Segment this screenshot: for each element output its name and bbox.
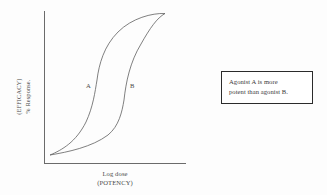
y-axis-title-line1: (EFFICACY) xyxy=(15,79,24,115)
y-axis-title: (EFFICACY) % Response. xyxy=(0,52,48,142)
x-axis-title-line2: (POTENCY) xyxy=(44,178,186,187)
callout-text: Agonist A is more potent than agonist B. xyxy=(229,77,309,96)
curve-label-a: A xyxy=(86,83,91,90)
curve-b-path xyxy=(50,14,165,156)
figure-canvas: A B (EFFICACY) % Response. Log dose (POT… xyxy=(0,0,327,195)
curve-label-b: B xyxy=(130,83,134,90)
y-axis-title-line2: % Response. xyxy=(24,79,33,115)
callout-box: Agonist A is more potent than agonist B. xyxy=(221,71,313,104)
x-axis-title-line1: Log dose xyxy=(44,169,186,178)
callout-line1: Agonist A is more xyxy=(229,77,309,87)
x-axis-title: Log dose (POTENCY) xyxy=(44,169,186,187)
callout-line2: potent than agonist B. xyxy=(229,87,309,97)
curve-a-path xyxy=(50,13,165,155)
